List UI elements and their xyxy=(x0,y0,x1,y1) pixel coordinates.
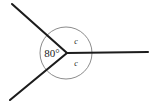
right-horizontal-ray xyxy=(67,52,148,53)
angle-label-c-lower: c xyxy=(74,59,78,68)
angle-label-c-upper: c xyxy=(74,37,78,46)
geometry-canvas: 80° c c xyxy=(0,0,151,106)
geometry-figure: 80° c c xyxy=(0,0,151,106)
angle-label-80-degrees: 80° xyxy=(44,47,59,59)
